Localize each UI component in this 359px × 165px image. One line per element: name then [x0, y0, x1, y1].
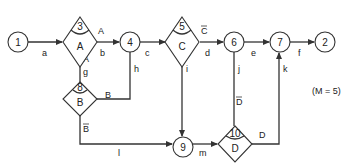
- edge-m: m: [193, 144, 217, 158]
- edge-label-i: i: [186, 64, 188, 74]
- edge-d: d: [200, 42, 223, 58]
- svg-text:9: 9: [180, 142, 186, 153]
- edge-h: h: [97, 52, 139, 99]
- svg-text:A: A: [77, 41, 84, 52]
- node-4: 4: [120, 32, 140, 52]
- edge-e: e: [244, 42, 269, 58]
- decision-node-3: 3 A: [63, 17, 97, 67]
- edge-label-f: f: [298, 48, 301, 58]
- node-7: 7: [270, 32, 290, 52]
- edge-label-a: a: [42, 48, 47, 58]
- branch-label-d-true: D: [259, 130, 266, 140]
- edge-l: l: [80, 116, 172, 158]
- decision-node-5: 5 C: [165, 17, 199, 67]
- edge-c: c: [140, 42, 165, 58]
- svg-text:5: 5: [179, 21, 185, 32]
- edge-label-b: b: [100, 48, 105, 58]
- decision-node-10: 10 D: [218, 126, 252, 162]
- decision-node-8: 8 B: [63, 82, 97, 116]
- svg-text:C: C: [201, 26, 208, 36]
- svg-text:B: B: [83, 124, 89, 134]
- svg-text:C: C: [178, 41, 185, 52]
- edge-label-l: l: [118, 148, 120, 158]
- node-1: 1: [8, 32, 28, 52]
- svg-text:1: 1: [15, 37, 21, 48]
- node-6: 6: [224, 32, 244, 52]
- edge-label-m: m: [199, 148, 207, 158]
- svg-text:D: D: [236, 97, 243, 107]
- edge-label-j: j: [237, 64, 240, 74]
- svg-text:4: 4: [127, 37, 133, 48]
- edge-label-e: e: [251, 48, 256, 58]
- edge-j: j: [234, 52, 240, 126]
- svg-text:2: 2: [322, 37, 328, 48]
- edge-label-k: k: [283, 64, 288, 74]
- edge-f: f: [290, 42, 314, 58]
- svg-text:D: D: [231, 143, 238, 154]
- edge-label-d: d: [205, 48, 210, 58]
- branch-label-c-false: C: [201, 26, 208, 36]
- edge-i: i: [182, 64, 188, 136]
- svg-text:8: 8: [77, 82, 83, 93]
- svg-text:3: 3: [77, 21, 83, 32]
- branch-label-b-false: B: [83, 124, 89, 134]
- svg-text:7: 7: [277, 37, 283, 48]
- node-2: 2: [315, 32, 335, 52]
- svg-text:10: 10: [229, 128, 241, 139]
- branch-label-d-false: D: [236, 97, 243, 107]
- control-flow-graph: a b c d e f g h i j k l: [0, 0, 359, 165]
- svg-text:B: B: [77, 97, 84, 108]
- edge-b: b: [97, 42, 119, 58]
- svg-text:6: 6: [231, 37, 237, 48]
- branch-label-a-true: A: [98, 26, 104, 36]
- edge-label-c: c: [145, 48, 150, 58]
- edge-label-g: g: [83, 67, 88, 77]
- node-9: 9: [173, 137, 193, 157]
- edge-label-h: h: [134, 64, 139, 74]
- branch-label-b-true: B: [105, 90, 111, 100]
- edge-k: k: [252, 53, 288, 144]
- complexity-note: (M = 5): [312, 86, 341, 96]
- edge-a: a: [28, 42, 62, 58]
- edge-g: g: [80, 67, 88, 82]
